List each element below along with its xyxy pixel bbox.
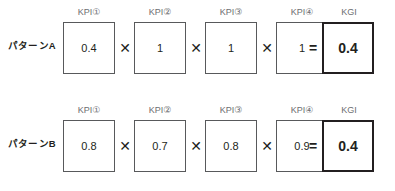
column-header-b-kpi-4: KPI④	[275, 105, 329, 115]
operator-multiply-b-1: ✕	[116, 120, 134, 172]
pattern-row-b: パターンB KPI① 0.8 ✕ KPI② 0.7 ✕ KPI③ 0.8 ✕ K…	[0, 100, 395, 190]
column-header-a-kpi-2: KPI②	[133, 7, 187, 17]
value-box-a-kpi-3: 1	[205, 22, 257, 74]
operator-multiply-a-3: ✕	[258, 22, 276, 74]
value-box-a-kpi-1: 0.4	[63, 22, 115, 74]
value-box-b-kpi-3: 0.8	[205, 120, 257, 172]
column-header-b-kpi-2: KPI②	[133, 105, 187, 115]
value-a-kpi-2: 1	[157, 43, 163, 54]
column-header-a-kpi-4: KPI④	[275, 7, 329, 17]
column-header-b-kpi-1: KPI①	[62, 105, 116, 115]
column-header-a-kpi-1: KPI①	[62, 7, 116, 17]
value-b-kgi: 0.4	[338, 139, 357, 153]
operator-equals-a: =	[304, 22, 322, 74]
pattern-row-a: パターンA KPI① 0.4 ✕ KPI② 1 ✕ KPI③ 1 ✕ KPI④ …	[0, 2, 395, 92]
value-box-b-kgi: 0.4	[322, 120, 374, 172]
kpi-kgi-diagram: パターンA KPI① 0.4 ✕ KPI② 1 ✕ KPI③ 1 ✕ KPI④ …	[0, 0, 395, 191]
column-header-a-kgi: KGI	[322, 7, 376, 17]
value-box-b-kpi-1: 0.8	[63, 120, 115, 172]
operator-multiply-b-3: ✕	[258, 120, 276, 172]
operator-multiply-a-1: ✕	[116, 22, 134, 74]
operator-equals-b: =	[304, 120, 322, 172]
value-a-kpi-1: 0.4	[81, 43, 96, 54]
value-a-kpi-3: 1	[228, 43, 234, 54]
value-b-kpi-1: 0.8	[81, 141, 96, 152]
row-label-pattern-a: パターンA	[4, 38, 60, 52]
column-header-b-kgi: KGI	[322, 105, 376, 115]
value-a-kgi: 0.4	[338, 41, 357, 55]
value-b-kpi-2: 0.7	[152, 141, 167, 152]
value-box-a-kpi-2: 1	[134, 22, 186, 74]
operator-multiply-a-2: ✕	[187, 22, 205, 74]
row-label-pattern-b: パターンB	[4, 136, 60, 150]
value-box-a-kgi: 0.4	[322, 22, 374, 74]
column-header-b-kpi-3: KPI③	[204, 105, 258, 115]
column-header-a-kpi-3: KPI③	[204, 7, 258, 17]
value-box-b-kpi-2: 0.7	[134, 120, 186, 172]
value-b-kpi-3: 0.8	[223, 141, 238, 152]
operator-multiply-b-2: ✕	[187, 120, 205, 172]
